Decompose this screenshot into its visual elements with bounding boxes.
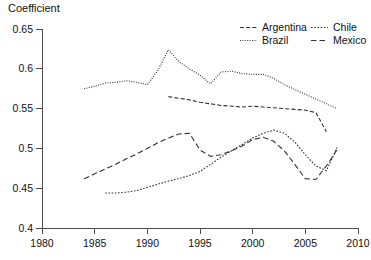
x-tick-label: 1980 (30, 237, 54, 249)
legend-label-argentina: Argentina (262, 21, 307, 33)
series-line-brazil (84, 50, 337, 109)
y-tick-label: 0.45 (13, 182, 34, 194)
y-tick-label: 0.55 (13, 102, 34, 114)
series-line-mexico (84, 133, 337, 179)
series-line-argentina (168, 97, 326, 132)
series-line-chile (105, 130, 337, 193)
series-lines (84, 50, 337, 193)
x-tick-label: 1985 (83, 237, 107, 249)
x-tick-label: 2010 (346, 237, 370, 249)
x-tick-label: 2005 (294, 237, 318, 249)
legend-label-mexico: Mexico (333, 34, 366, 46)
legend-label-brazil: Brazil (262, 34, 288, 46)
line-chart: Coefficient 0.40.450.50.550.60.65 198019… (0, 0, 371, 260)
y-tick-label: 0.6 (18, 62, 33, 74)
legend-label-chile: Chile (333, 21, 357, 33)
y-tick-label: 0.5 (18, 142, 33, 154)
x-tick-label: 1990 (136, 237, 160, 249)
y-tick-label: 0.65 (13, 23, 34, 35)
chart-legend: ArgentinaChileBrazilMexico (240, 21, 366, 46)
x-tick-label: 1995 (188, 237, 212, 249)
x-tick-label: 2000 (241, 237, 265, 249)
y-tick-label: 0.4 (18, 222, 33, 234)
y-axis-ticks: 0.40.450.50.550.60.65 (13, 23, 42, 234)
x-axis-ticks: 1980198519901995200020052010 (30, 228, 370, 249)
chart-plot-area: 0.40.450.50.550.60.65 198019851990199520… (0, 0, 371, 260)
